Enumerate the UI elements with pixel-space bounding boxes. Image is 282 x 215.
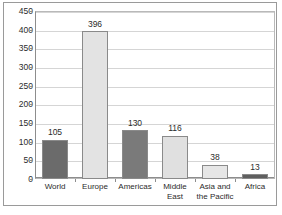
y-axis-tick-label: 150 (5, 119, 33, 128)
x-axis-tick-mark (155, 179, 156, 182)
y-axis-tick-label: 100 (5, 137, 33, 146)
x-axis: WorldEuropeAmericasMiddle EastAsia and t… (35, 182, 275, 208)
y-axis-tick-mark (30, 160, 33, 161)
bar[interactable] (202, 165, 228, 179)
x-axis-tick-mark (75, 179, 76, 182)
x-axis-tick-mark (115, 179, 116, 182)
bar-chart-figure: 050100150200250300350400450 105396130116… (0, 0, 282, 215)
bar-value-label: 396 (88, 20, 102, 29)
y-axis-tick-mark (30, 142, 33, 143)
bar-group: 105 (35, 11, 75, 179)
y-axis-tick-label: 200 (5, 100, 33, 109)
bar-series: 1053961301163813 (35, 11, 275, 179)
x-axis-tick-label: Middle East (155, 182, 195, 202)
y-axis-tick-label: 450 (5, 7, 33, 16)
y-axis-tick-label: 50 (5, 156, 33, 165)
bar[interactable] (82, 31, 108, 179)
y-axis-tick-mark (30, 11, 33, 12)
bar-group: 13 (235, 11, 275, 179)
y-axis-tick-label: 300 (5, 63, 33, 72)
x-axis-tick-label: Africa (235, 182, 275, 192)
bar[interactable] (162, 136, 188, 179)
y-axis-tick-mark (30, 104, 33, 105)
x-axis-tick-mark (195, 179, 196, 182)
bar-group: 116 (155, 11, 195, 179)
bar-value-label: 38 (210, 153, 219, 162)
y-axis-tick-mark (30, 30, 33, 31)
x-axis-tick-label: Europe (75, 182, 115, 192)
y-axis-tick-mark (30, 67, 33, 68)
bar-group: 396 (75, 11, 115, 179)
bar[interactable] (122, 130, 148, 179)
y-axis-tick-mark (30, 86, 33, 87)
bar-value-label: 13 (250, 163, 259, 172)
y-axis: 050100150200250300350400450 (4, 11, 33, 179)
y-axis-tick-mark (30, 48, 33, 49)
x-axis-tick-label: Asia and the Pacific (195, 182, 235, 202)
bar-value-label: 130 (128, 119, 142, 128)
y-axis-tick-label: 0 (5, 175, 33, 184)
bar-value-label: 105 (48, 128, 62, 137)
y-axis-tick-mark (30, 179, 33, 180)
y-axis-tick-label: 250 (5, 81, 33, 90)
bar-group: 38 (195, 11, 235, 179)
bar[interactable] (242, 174, 268, 179)
bar-value-label: 116 (168, 124, 182, 133)
y-axis-tick-label: 350 (5, 44, 33, 53)
x-axis-tick-mark (235, 179, 236, 182)
chart-frame: 050100150200250300350400450 105396130116… (3, 2, 277, 206)
x-axis-tick-label: World (35, 182, 75, 192)
x-axis-tick-label: Americas (115, 182, 155, 192)
y-axis-tick-mark (30, 123, 33, 124)
bar-group: 130 (115, 11, 155, 179)
bar[interactable] (42, 140, 68, 179)
y-axis-tick-label: 400 (5, 25, 33, 34)
